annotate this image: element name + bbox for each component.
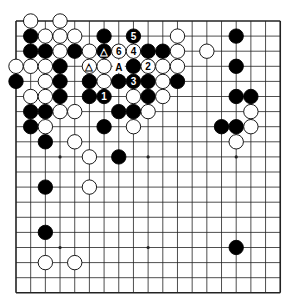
star-point: [147, 246, 150, 249]
white-stone: [68, 135, 82, 149]
white-stone: [244, 104, 258, 118]
black-stone: [214, 120, 228, 134]
white-stone: [82, 150, 96, 164]
triangle-marker: △: [99, 46, 108, 57]
black-stone: [112, 74, 126, 88]
go-board-diagram: 5△64△231 A: [0, 0, 289, 307]
white-stone: [82, 44, 96, 58]
black-stone: [244, 89, 258, 103]
star-point: [147, 155, 150, 158]
white-stone: [53, 14, 67, 28]
move-number: 5: [131, 31, 137, 42]
black-stone: [23, 29, 37, 43]
black-stone: [141, 74, 155, 88]
white-stone: [156, 89, 170, 103]
black-stone: [38, 44, 52, 58]
black-stone: [112, 150, 126, 164]
white-stone: [23, 89, 37, 103]
move-number: 1: [101, 91, 107, 102]
black-stone: [141, 44, 155, 58]
black-stone: [53, 59, 67, 73]
white-stone: [38, 120, 52, 134]
white-stone: [141, 104, 155, 118]
black-stone: [97, 29, 111, 43]
white-stone: [126, 120, 140, 134]
white-stone: [38, 59, 52, 73]
white-stone: [38, 74, 52, 88]
black-stone: [23, 44, 37, 58]
black-stone: [38, 180, 52, 194]
black-stone: 3: [126, 74, 140, 88]
white-stone: [68, 104, 82, 118]
white-stone: [156, 59, 170, 73]
black-stone: [126, 59, 140, 73]
white-stone: [23, 14, 37, 28]
white-stone: [53, 29, 67, 43]
black-stone: [170, 74, 184, 88]
white-stone: [38, 89, 52, 103]
black-stone: [156, 44, 170, 58]
white-stone: [97, 59, 111, 73]
black-stone: [229, 59, 243, 73]
black-stone: [68, 44, 82, 58]
black-stone: [53, 74, 67, 88]
black-stone: [82, 89, 96, 103]
white-stone: [68, 255, 82, 269]
white-stone: [156, 74, 170, 88]
white-stone: [53, 104, 67, 118]
point-label-a: A: [115, 62, 122, 73]
white-stone: [170, 59, 184, 73]
move-number: 2: [145, 61, 151, 72]
black-stone: [229, 120, 243, 134]
white-stone: [200, 44, 214, 58]
white-stone: 6: [112, 44, 126, 58]
white-stone: [68, 29, 82, 43]
point-labels: A: [113, 60, 125, 73]
move-number: 3: [131, 76, 137, 87]
white-stone: [9, 59, 23, 73]
white-stone: [126, 89, 140, 103]
star-point: [58, 155, 61, 158]
white-stone: [38, 29, 52, 43]
white-stone: [82, 180, 96, 194]
black-stone: [38, 225, 52, 239]
white-stone: 4: [126, 44, 140, 58]
white-stone: [170, 44, 184, 58]
black-stone: [38, 135, 52, 149]
white-stone: [23, 59, 37, 73]
star-point: [58, 246, 61, 249]
black-stone: [82, 74, 96, 88]
white-stone: [229, 135, 243, 149]
black-stone: 5: [126, 29, 140, 43]
white-stone: △: [82, 59, 96, 73]
white-stone: [38, 255, 52, 269]
black-stone: [53, 89, 67, 103]
white-stone: 2: [141, 59, 155, 73]
black-stone: [126, 104, 140, 118]
black-stone: 1: [97, 89, 111, 103]
black-stone: △: [97, 44, 111, 58]
black-stone: [9, 74, 23, 88]
move-number: 4: [131, 46, 137, 57]
move-number: 6: [116, 46, 122, 57]
star-point: [235, 155, 238, 158]
white-stone: [53, 44, 67, 58]
black-stone: [229, 240, 243, 254]
black-stone: [229, 29, 243, 43]
black-stone: [97, 120, 111, 134]
black-stone: [38, 104, 52, 118]
white-stone: [244, 120, 258, 134]
white-stone: [170, 29, 184, 43]
black-stone: [229, 89, 243, 103]
white-stone: [97, 74, 111, 88]
black-stone: [23, 104, 37, 118]
black-stone: [23, 120, 37, 134]
black-stone: [141, 89, 155, 103]
black-stone: [112, 104, 126, 118]
triangle-marker: △: [84, 61, 93, 72]
